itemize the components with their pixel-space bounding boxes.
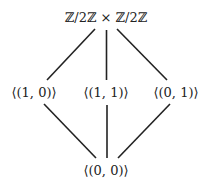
node-trivial-subgroup: ⟨(0, 0)⟩ bbox=[83, 164, 128, 177]
node-subgroup-0-1: ⟨(0, 1)⟩ bbox=[153, 86, 198, 99]
edge-top-left bbox=[47, 29, 95, 80]
edge-left-bottom bbox=[44, 104, 96, 158]
edge-right-bottom bbox=[118, 104, 170, 158]
edge-top-right bbox=[117, 29, 167, 80]
node-subgroup-1-1: ⟨(1, 1)⟩ bbox=[83, 86, 128, 99]
node-full-group: ℤ/2ℤ × ℤ/2ℤ bbox=[65, 11, 147, 24]
subgroup-lattice-diagram: ℤ/2ℤ × ℤ/2ℤ ⟨(1, 0)⟩ ⟨(1, 1)⟩ ⟨(0, 1)⟩ ⟨… bbox=[0, 0, 209, 186]
node-subgroup-1-0: ⟨(1, 0)⟩ bbox=[11, 86, 56, 99]
